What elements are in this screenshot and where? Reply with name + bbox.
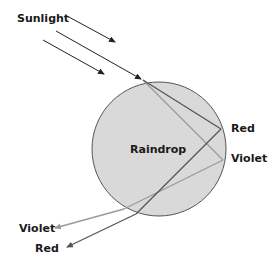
sunlight-ray-3 bbox=[43, 40, 104, 74]
sunlight-ray-1 bbox=[67, 16, 115, 42]
raindrop-label: Raindrop bbox=[130, 143, 186, 156]
red-exit-label: Red bbox=[35, 242, 59, 255]
sunlight-ray-2 bbox=[56, 31, 141, 79]
violet-exit-label: Violet bbox=[19, 222, 55, 235]
red-exit-ray bbox=[67, 214, 136, 247]
red-internal-label: Red bbox=[231, 122, 255, 135]
violet-internal-label: Violet bbox=[231, 152, 267, 165]
sunlight-label: Sunlight bbox=[17, 12, 69, 25]
